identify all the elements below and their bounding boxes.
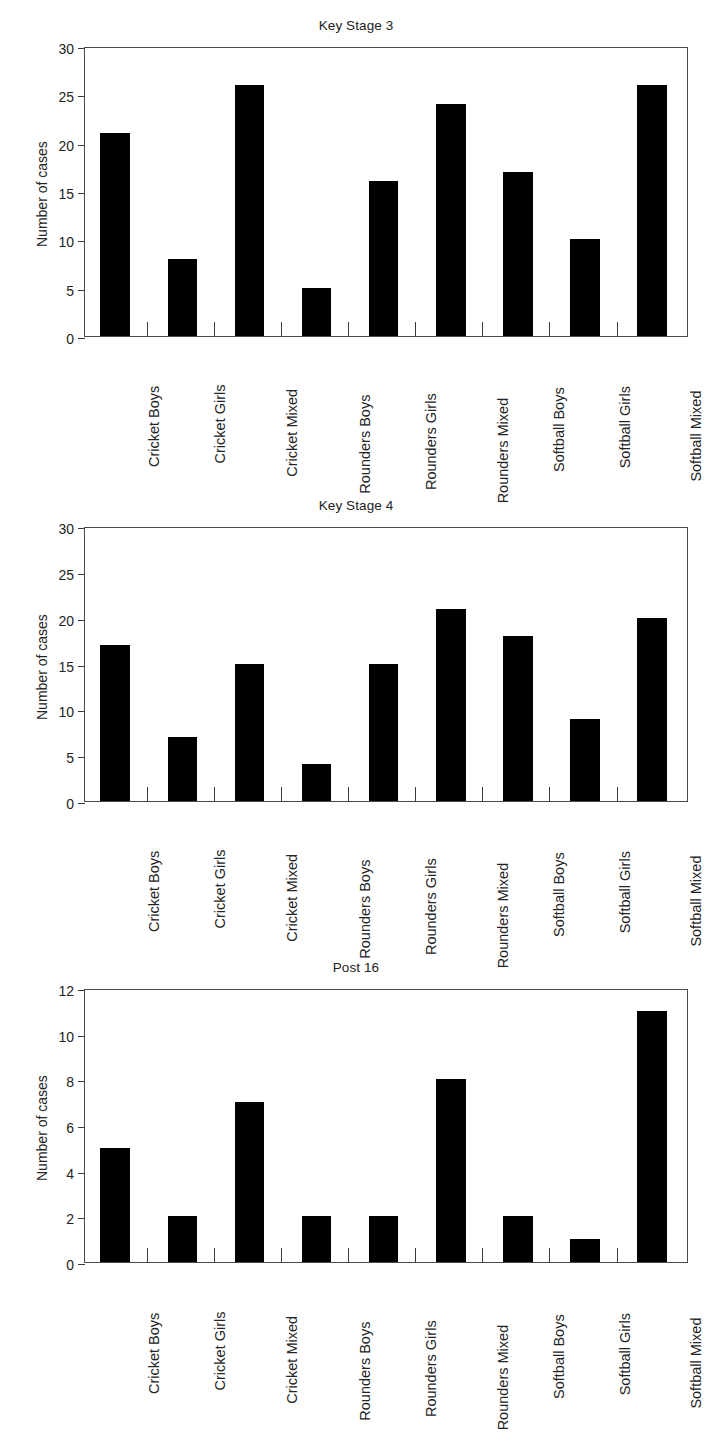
x-axis-tick	[147, 1248, 148, 1262]
y-axis-tick-label: 6	[66, 1121, 74, 1135]
bar	[436, 1079, 466, 1262]
chart-title: Key Stage 4	[0, 498, 712, 513]
bar	[235, 85, 265, 336]
x-axis-tick-label: Cricket Girls	[214, 1311, 229, 1390]
bar	[369, 181, 399, 336]
y-axis-tick: 5	[78, 757, 85, 758]
y-axis-tick-label: 10	[58, 1030, 74, 1044]
x-axis-tick	[617, 322, 618, 336]
bar	[168, 737, 198, 801]
x-axis-tick	[348, 322, 349, 336]
y-axis-label: Number of cases	[34, 1075, 50, 1181]
y-axis-tick-label: 15	[58, 187, 74, 201]
plot-area: 024681012	[84, 989, 688, 1263]
bar	[302, 288, 332, 336]
bar	[168, 259, 198, 336]
x-axis-tick	[482, 322, 483, 336]
y-axis-tick: 8	[78, 1081, 85, 1082]
bar	[369, 1216, 399, 1262]
y-axis-tick: 25	[78, 574, 85, 575]
x-axis-tick-label: Softball Boys	[552, 387, 567, 472]
x-axis-tick	[348, 787, 349, 801]
y-axis-label: Number of cases	[34, 141, 50, 247]
y-axis-tick-label: 5	[66, 284, 74, 298]
y-axis-tick: 15	[78, 193, 85, 194]
bar	[100, 645, 130, 801]
y-axis-tick: 0	[78, 803, 85, 804]
x-axis-labels: Cricket BoysCricket GirlsCricket MixedRo…	[0, 810, 712, 950]
bar	[235, 1102, 265, 1262]
x-axis-tick	[281, 322, 282, 336]
x-axis-tick	[214, 1248, 215, 1262]
x-axis-tick-label: Rounders Girls	[424, 858, 439, 955]
x-axis-tick-label: Softball Mixed	[689, 391, 704, 482]
x-axis-tick-label: Cricket Boys	[148, 386, 163, 467]
bar	[100, 1148, 130, 1262]
y-axis-tick-label: 0	[66, 332, 74, 346]
y-axis-tick: 2	[78, 1218, 85, 1219]
plot-inner: 051015202530	[85, 48, 687, 336]
bar	[302, 764, 332, 801]
x-axis-tick-label: Cricket Boys	[148, 1313, 163, 1394]
x-axis-labels: Cricket BoysCricket GirlsCricket MixedRo…	[0, 1272, 712, 1412]
y-axis-tick: 5	[78, 290, 85, 291]
x-axis-tick-label: Rounders Boys	[358, 1322, 373, 1421]
y-axis-tick-label: 8	[66, 1075, 74, 1089]
y-axis-tick: 0	[78, 338, 85, 339]
x-axis-tick	[348, 1248, 349, 1262]
bar	[570, 719, 600, 802]
y-axis-tick: 0	[78, 1264, 85, 1265]
x-axis-tick-label: Softball Girls	[618, 1313, 633, 1395]
x-axis-tick	[281, 1248, 282, 1262]
bar	[570, 239, 600, 336]
y-axis-tick: 4	[78, 1173, 85, 1174]
plot-inner: 024681012	[85, 990, 687, 1262]
x-axis-tick	[147, 322, 148, 336]
bar	[637, 85, 667, 336]
x-axis-tick-label: Softball Mixed	[689, 856, 704, 947]
x-axis-tick-label: Softball Mixed	[689, 1318, 704, 1409]
x-axis-tick-label: Cricket Mixed	[285, 1316, 300, 1404]
y-axis-tick: 20	[78, 145, 85, 146]
x-axis-tick	[415, 322, 416, 336]
bar	[637, 618, 667, 801]
y-axis-tick-label: 4	[66, 1167, 74, 1181]
x-axis-tick-label: Rounders Girls	[424, 393, 439, 490]
y-axis-tick-label: 2	[66, 1212, 74, 1226]
y-axis-tick-label: 0	[66, 797, 74, 811]
y-axis-tick: 15	[78, 666, 85, 667]
x-axis-tick	[617, 1248, 618, 1262]
x-axis-tick-label: Cricket Girls	[214, 384, 229, 463]
x-axis-tick	[549, 322, 550, 336]
y-axis-tick: 10	[78, 711, 85, 712]
x-axis-tick	[415, 787, 416, 801]
x-axis-tick-label: Softball Girls	[618, 851, 633, 933]
x-axis-tick	[549, 787, 550, 801]
x-axis-tick	[415, 1248, 416, 1262]
bar	[235, 664, 265, 802]
y-axis-tick: 6	[78, 1127, 85, 1128]
bar	[302, 1216, 332, 1262]
chart-title: Post 16	[0, 960, 712, 975]
x-axis-tick-label: Rounders Boys	[358, 860, 373, 959]
bar	[637, 1011, 667, 1262]
x-axis-tick-label: Softball Girls	[618, 386, 633, 468]
y-axis-tick-label: 30	[58, 42, 74, 56]
x-axis-tick-label: Rounders Mixed	[495, 1325, 510, 1431]
y-axis-tick-label: 20	[58, 139, 74, 153]
y-axis-tick: 12	[78, 990, 85, 991]
plot-inner: 051015202530	[85, 528, 687, 801]
y-axis-label: Number of cases	[34, 614, 50, 720]
x-axis-tick	[214, 787, 215, 801]
x-axis-tick	[617, 787, 618, 801]
chart-title: Key Stage 3	[0, 18, 712, 33]
x-axis-tick-label: Rounders Mixed	[495, 863, 510, 969]
bar	[570, 1239, 600, 1262]
y-axis-tick-label: 5	[66, 751, 74, 765]
x-axis-tick-label: Cricket Boys	[148, 851, 163, 932]
y-axis-tick: 20	[78, 620, 85, 621]
y-axis-tick-label: 20	[58, 614, 74, 628]
y-axis-tick: 25	[78, 96, 85, 97]
y-axis-tick: 30	[78, 528, 85, 529]
plot-area: 051015202530	[84, 47, 688, 337]
